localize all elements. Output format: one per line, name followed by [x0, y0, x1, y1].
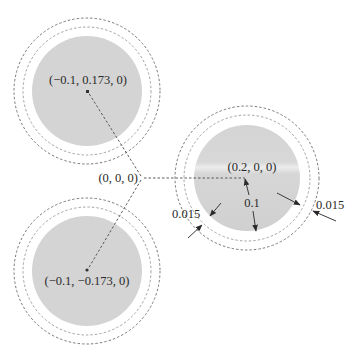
coordinate-label: (−0.1, 0.173, 0): [49, 73, 127, 87]
shell-label-left: 0.015: [172, 207, 200, 221]
coordinate-label: (−0.1, −0.173, 0): [45, 274, 130, 288]
radius-label: 0.1: [244, 196, 260, 210]
shell-arrow-outer-right: [313, 211, 336, 221]
sphere-core: [194, 125, 300, 231]
center-point: [86, 90, 89, 93]
shell-label-right: 0.015: [316, 198, 344, 212]
nanoparticle-trimer-diagram: (−0.1, 0.173, 0) (0.2, 0, 0) (−0.1, −0.1…: [0, 0, 360, 359]
origin-label: (0, 0, 0): [98, 171, 138, 185]
sphere-top: (−0.1, 0.173, 0): [14, 18, 160, 164]
center-point: [85, 268, 88, 271]
sphere-right: (0.2, 0, 0): [175, 106, 319, 250]
sphere-bottom: (−0.1, −0.173, 0): [14, 198, 160, 344]
coordinate-label: (0.2, 0, 0): [228, 160, 277, 174]
shell-arrow-outer-left: [188, 225, 202, 238]
